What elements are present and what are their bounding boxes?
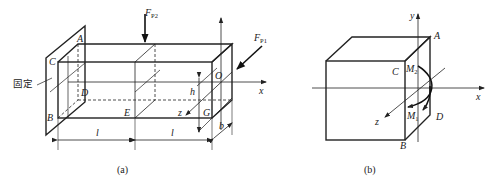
b-dim-label: b — [219, 121, 224, 131]
x-axis-label-b: x — [476, 92, 480, 102]
point-b-label: B — [47, 113, 53, 123]
caption-a: (a) — [117, 165, 128, 175]
force-p2-label: FP2 — [145, 8, 158, 20]
caption-b: (b) — [364, 165, 376, 175]
figure-b-section — [312, 14, 484, 142]
figure-a-beam — [37, 14, 266, 150]
point-b-label-b: B — [400, 141, 406, 151]
l-dim-label-1: l — [96, 128, 99, 138]
point-e-label: E — [124, 108, 130, 118]
fixed-support-label: 固定 — [13, 79, 33, 89]
point-a-label: A — [77, 34, 83, 44]
moment-m1-label: M1 — [407, 111, 419, 123]
point-d-label: D — [81, 88, 88, 98]
point-c-label: C — [49, 57, 56, 67]
force-p1-arrow — [237, 46, 262, 69]
point-g-label: G — [203, 108, 210, 118]
point-o-label: O — [215, 71, 222, 81]
h-dim-label: h — [190, 87, 195, 97]
point-d-label-b: D — [436, 112, 443, 122]
x-axis-label-a: x — [259, 86, 263, 96]
diagram-canvas — [0, 0, 495, 190]
force-p1-label: FP1 — [254, 33, 267, 45]
point-c-label-b: C — [392, 67, 399, 77]
z-axis-label-b: z — [375, 117, 379, 127]
l-dim-label-2: l — [171, 128, 174, 138]
point-a-label-b: A — [434, 31, 440, 41]
z-axis-label-a: z — [178, 108, 182, 118]
y-axis-label-b: y — [410, 11, 414, 21]
moment-m2-label: M2 — [406, 64, 418, 76]
